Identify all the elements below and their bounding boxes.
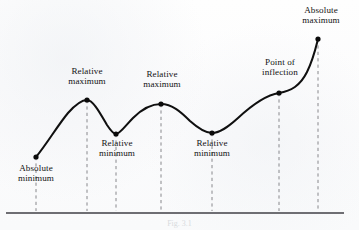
absolute-minimum-label: Absolute minimum bbox=[6, 163, 66, 184]
point-marker-relative-maximum bbox=[158, 101, 163, 106]
point-of-inflection-label: Point of inflection bbox=[249, 57, 311, 78]
curve-canvas bbox=[0, 0, 359, 230]
absolute-maximum-label: Absolute maximum bbox=[288, 5, 354, 26]
point-marker-relative-maximum bbox=[84, 97, 89, 102]
relative-maximum-2-label: Relative maximum bbox=[130, 69, 194, 90]
point-marker-inflection bbox=[276, 90, 281, 95]
relative-maximum-1-label: Relative maximum bbox=[55, 66, 119, 87]
point-marker-absolute-minimum bbox=[33, 154, 38, 159]
extrema-markers bbox=[33, 36, 320, 159]
point-marker-relative-minimum bbox=[113, 131, 118, 136]
point-marker-relative-minimum bbox=[209, 130, 214, 135]
point-marker-absolute-maximum bbox=[315, 36, 320, 41]
relative-minimum-2-label: Relative minimum bbox=[182, 138, 242, 159]
extrema-figure: Absolute minimum Relative maximum Relati… bbox=[0, 0, 359, 230]
relative-minimum-1-label: Relative minimum bbox=[87, 138, 147, 159]
figure-caption: Fig. 3.1 bbox=[0, 216, 359, 230]
